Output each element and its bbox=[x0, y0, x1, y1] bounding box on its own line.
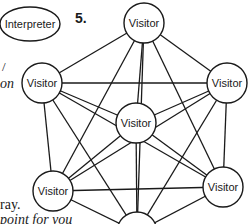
visitor-node-center: Visitor bbox=[116, 103, 156, 143]
visitor-label: Visitor bbox=[27, 77, 58, 89]
edge-top-lower-right bbox=[144, 23, 223, 187]
visitor-nodes: VisitorVisitorVisitorVisitorVisitorVisit… bbox=[22, 3, 247, 224]
network-svg: Interpreter 5. VisitorVisitorVisitorVisi… bbox=[0, 0, 251, 224]
visitor-node-lower-left: Visitor bbox=[33, 171, 73, 211]
visitor-node-bottom: Visitor bbox=[117, 212, 157, 224]
visitor-label: Visitor bbox=[121, 117, 152, 129]
communication-network-diagram: Interpreter 5. VisitorVisitorVisitorVisi… bbox=[0, 0, 251, 224]
text-fragment-line2: point for you bbox=[0, 212, 72, 224]
visitor-circle bbox=[117, 212, 157, 224]
figure-number: 5. bbox=[75, 10, 87, 26]
interpreter-label: Interpreter bbox=[5, 18, 56, 30]
visitor-node-upper-left: Visitor bbox=[22, 63, 62, 103]
interpreter-node: Interpreter bbox=[0, 7, 60, 41]
visitor-node-top: Visitor bbox=[124, 3, 164, 43]
visitor-label: Visitor bbox=[38, 185, 69, 197]
visitor-label: Visitor bbox=[129, 17, 160, 29]
visitor-label: Visitor bbox=[212, 77, 243, 89]
text-fragment-mark: / bbox=[2, 59, 6, 75]
visitor-node-upper-right: Visitor bbox=[207, 63, 247, 103]
visitor-label: Visitor bbox=[208, 181, 239, 193]
text-fragment-italic: on bbox=[0, 76, 14, 92]
text-fragment-line1: ray. bbox=[0, 197, 20, 213]
visitor-node-lower-right: Visitor bbox=[203, 167, 243, 207]
